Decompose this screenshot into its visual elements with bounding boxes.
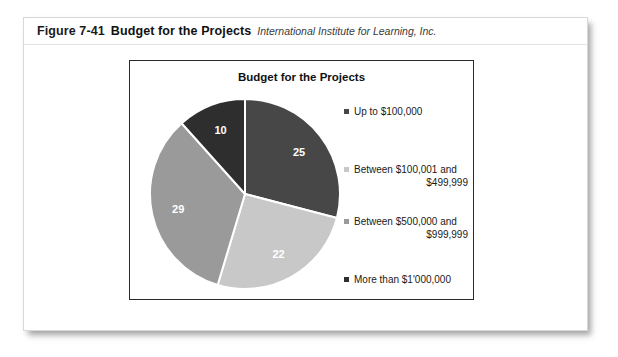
chart-title: Budget for the Projects <box>130 71 473 83</box>
figure-caption: Figure 7-41 Budget for the Projects Inte… <box>24 18 587 45</box>
legend-item[interactable]: Between $100,001 and $499,999 <box>344 163 468 189</box>
legend-label: Between $100,001 and $499,999 <box>354 163 468 189</box>
legend-swatch-icon <box>344 109 349 114</box>
pie-data-label: 10 <box>214 124 226 136</box>
legend-label-line1: Between $100,001 and <box>354 163 468 176</box>
pie-data-label: 25 <box>293 146 305 158</box>
figure-card: Figure 7-41 Budget for the Projects Inte… <box>23 17 588 331</box>
chart-legend: Up to $100,000 Between $100,001 and $499… <box>344 105 468 295</box>
legend-item[interactable]: More than $1'000,000 <box>344 273 468 286</box>
legend-label-line2: $499,999 <box>354 176 468 189</box>
pie-svg: 25222910 <box>148 97 342 291</box>
legend-swatch-icon <box>344 277 349 282</box>
pie-data-label: 22 <box>272 248 284 260</box>
legend-item[interactable]: Up to $100,000 <box>344 105 468 118</box>
chart-frame: Budget for the Projects 25222910 Up to $… <box>129 60 474 300</box>
legend-label: More than $1'000,000 <box>354 273 468 286</box>
pie-data-label: 29 <box>172 203 184 215</box>
legend-label-line1: Between $500,000 and <box>354 215 468 228</box>
legend-label: Up to $100,000 <box>354 105 468 118</box>
legend-swatch-icon <box>344 167 349 172</box>
pie-slices <box>150 99 340 289</box>
legend-label-line2: $999,999 <box>354 228 468 241</box>
pie-chart: 25222910 <box>148 97 342 291</box>
figure-number: Figure 7-41 <box>37 24 105 38</box>
figure-source: International Institute for Learning, In… <box>257 25 436 37</box>
figure-title: Budget for the Projects <box>111 24 252 38</box>
legend-label-line1: Up to $100,000 <box>354 105 468 118</box>
legend-item[interactable]: Between $500,000 and $999,999 <box>344 215 468 241</box>
legend-label: Between $500,000 and $999,999 <box>354 215 468 241</box>
legend-swatch-icon <box>344 219 349 224</box>
legend-label-line1: More than $1'000,000 <box>354 273 468 286</box>
